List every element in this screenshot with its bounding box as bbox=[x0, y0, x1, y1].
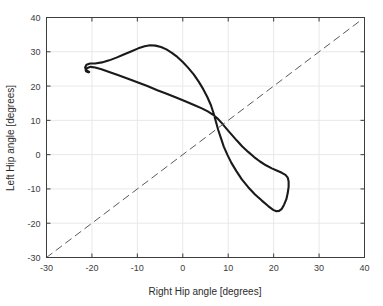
y-tick-label: 20 bbox=[30, 82, 40, 92]
y-tick-label: 10 bbox=[30, 116, 40, 126]
x-tick-label: -30 bbox=[40, 263, 53, 273]
y-tick-label: 0 bbox=[35, 150, 40, 160]
x-tick-label: 20 bbox=[269, 263, 279, 273]
y-axis-title: Left Hip angle [degrees] bbox=[5, 85, 16, 191]
x-tick-label: -10 bbox=[131, 263, 144, 273]
y-tick-label: -30 bbox=[27, 253, 40, 263]
x-tick-label: 30 bbox=[314, 263, 324, 273]
x-tick-label: -20 bbox=[85, 263, 98, 273]
y-tick-label: 30 bbox=[30, 47, 40, 57]
figure-canvas: -30-20-10010203040-30-20-10010203040 Rig… bbox=[0, 0, 383, 306]
chart-plot: -30-20-10010203040-30-20-10010203040 Rig… bbox=[0, 0, 383, 306]
y-tick-label: -20 bbox=[27, 219, 40, 229]
figure-background bbox=[0, 0, 383, 306]
y-tick-label: -10 bbox=[27, 184, 40, 194]
y-tick-label: 40 bbox=[30, 13, 40, 23]
x-axis-title: Right Hip angle [degrees] bbox=[149, 286, 262, 297]
x-tick-label: 0 bbox=[180, 263, 185, 273]
x-tick-label: 40 bbox=[359, 263, 369, 273]
x-tick-label: 10 bbox=[223, 263, 233, 273]
